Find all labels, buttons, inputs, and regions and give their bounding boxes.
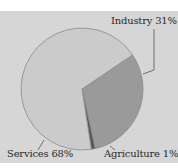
label-agriculture: Agriculture 1%	[104, 148, 178, 159]
label-services: Services 68%	[7, 148, 73, 159]
label-industry: Industry 31%	[111, 15, 177, 26]
leader-industry	[143, 29, 154, 74]
